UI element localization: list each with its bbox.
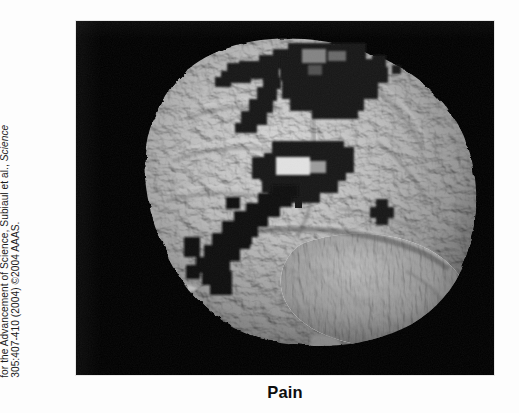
scan-grain	[76, 21, 494, 375]
credit-text: Reprinted with permission from The Ameri…	[22, 18, 66, 378]
figure-panel	[76, 21, 494, 375]
brain-surface-render	[76, 21, 494, 375]
credit-line-2-prefix: for the Advancement of Science, Subiaul …	[0, 162, 10, 378]
credit-line-3: 305:407-410 (2004) ©2004 AAAS.	[10, 18, 22, 378]
figure-caption: Pain	[76, 383, 494, 402]
credit-line-2: for the Advancement of Science, Subiaul …	[0, 18, 10, 378]
credit-journal-name: Science	[0, 125, 10, 162]
